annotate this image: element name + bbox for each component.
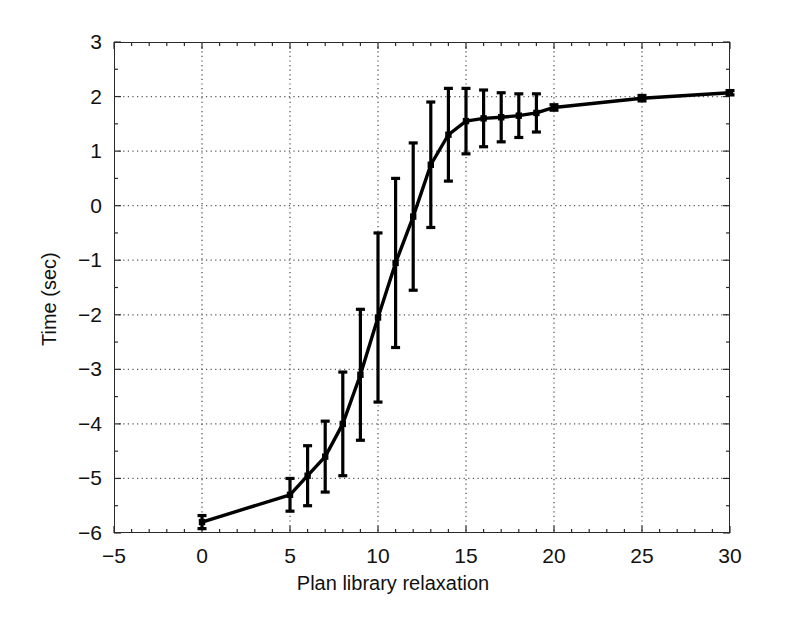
grid-lines [114,42,730,533]
x-tick-label: 20 [514,545,594,566]
error-bars [198,88,735,528]
chart-svg [0,0,786,633]
y-tick-label: 0 [40,195,102,216]
x-tick-label: 30 [690,545,770,566]
y-tick-label: −6 [40,522,102,543]
x-tick-label: 5 [250,545,330,566]
figure-canvas: Time (sec) Plan library relaxation −6−5−… [0,0,786,633]
x-tick-label: −5 [74,545,154,566]
x-tick-label: 0 [162,545,242,566]
y-tick-label: 3 [40,31,102,52]
y-tick-label: −4 [40,413,102,434]
y-tick-label: −1 [40,249,102,270]
x-tick-label: 10 [338,545,418,566]
y-tick-label: −2 [40,304,102,325]
x-tick-label: 25 [602,545,682,566]
y-tick-label: −5 [40,467,102,488]
axis-tick-marks [114,42,730,533]
x-axis-title: Plan library relaxation [0,572,786,595]
y-tick-label: 2 [40,86,102,107]
y-tick-label: 1 [40,140,102,161]
x-tick-label: 15 [426,545,506,566]
y-tick-label: −3 [40,358,102,379]
